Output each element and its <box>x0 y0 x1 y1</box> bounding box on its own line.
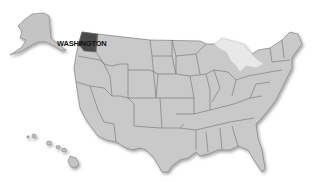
state-label-washington: WASHINGTON <box>57 39 107 48</box>
alaska-inset <box>10 13 66 55</box>
contiguous-us <box>74 32 302 172</box>
us-map <box>0 0 314 182</box>
hawaii-inset <box>27 134 79 168</box>
